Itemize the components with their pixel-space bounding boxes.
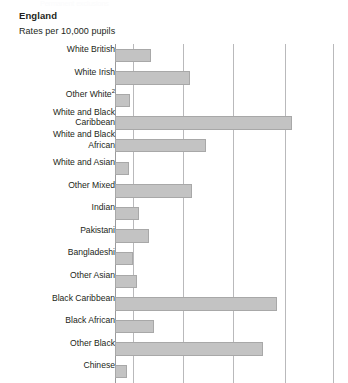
category-label: White Irish [3,67,115,77]
bar [115,184,192,197]
bar-row: White British [0,44,348,67]
bar-row: Black African [0,315,348,338]
bar [115,139,206,152]
bar [115,320,154,333]
bar [115,162,129,175]
bar [115,229,149,242]
bar [115,49,151,62]
category-label: Other White2 [3,89,115,99]
bar-row: Other Asian [0,270,348,293]
category-label: White and Black Caribbean [3,107,115,127]
bar [115,275,137,288]
bar [115,116,292,129]
bar-row: White and Asian [0,157,348,180]
bar-row: Chinese [0,360,348,383]
bar [115,365,127,378]
units-label: Rates per 10,000 pupils [19,26,115,37]
category-label: Chinese [3,360,115,370]
category-label: Pakistani [3,225,115,235]
category-label: Other Mixed [3,180,115,190]
clipped-top-text: Permanent exclusions [40,0,160,7]
bar-row: Indian [0,202,348,225]
plot-area: White BritishWhite IrishOther White2Whit… [0,44,348,383]
bar-row: Bangladeshi [0,247,348,270]
bar-row: White and Black African [0,134,348,157]
bar [115,342,263,355]
category-label: Indian [3,202,115,212]
bar [115,297,277,310]
bar-row: Black Caribbean [0,293,348,316]
bar [115,207,139,220]
bar [115,71,190,84]
chart-panel: Permanent exclusions England Rates per 1… [0,0,348,383]
bar-row: Other Black [0,338,348,361]
category-label: Bangladeshi [3,247,115,257]
category-label: Black African [3,315,115,325]
bar-row: Pakistani [0,225,348,248]
bar-row: Other Mixed [0,180,348,203]
bar [115,252,133,265]
category-label: White British [3,44,115,54]
category-label: Black Caribbean [3,293,115,303]
bar [115,94,130,107]
region-title: England [19,10,57,21]
category-label: White and Black African [3,129,115,149]
category-label: White and Asian [3,157,115,167]
category-label: Other Black [3,338,115,348]
bar-rows: White BritishWhite IrishOther White2Whit… [0,44,348,383]
category-label: Other Asian [3,270,115,280]
bar-row: White Irish [0,67,348,90]
